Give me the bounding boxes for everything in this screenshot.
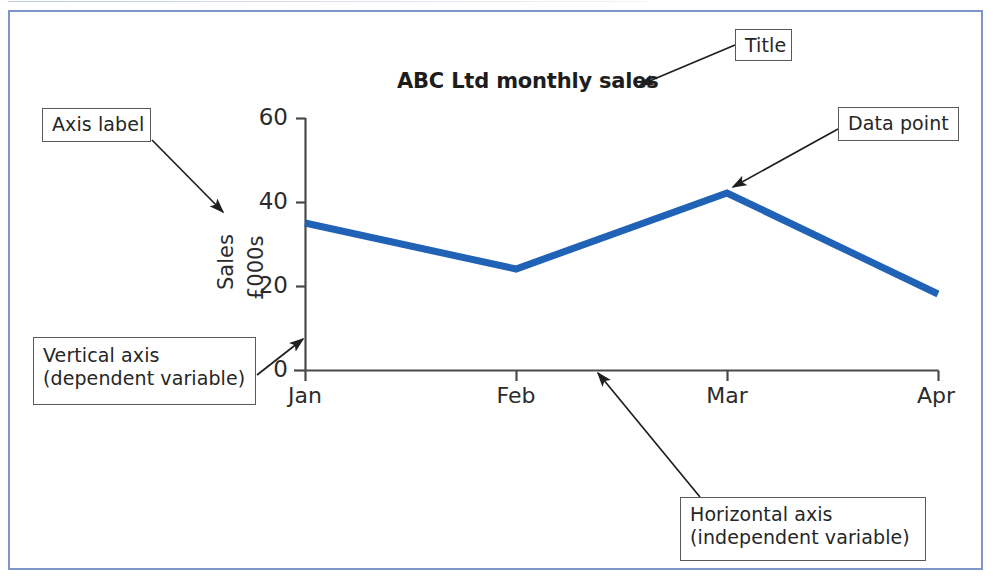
callout-vertical-axis: Vertical axis (dependent variable) xyxy=(33,337,256,405)
y-tick-label-40: 40 xyxy=(242,188,288,214)
leader-axis-label xyxy=(152,140,223,212)
y-tick-label-20: 20 xyxy=(242,272,288,298)
leader-horizontal-axis xyxy=(598,373,700,497)
callout-horizontal-axis: Horizontal axis (independent variable) xyxy=(680,497,926,561)
x-tick-label-jan: Jan xyxy=(265,383,345,408)
x-tick-label-apr: Apr xyxy=(896,383,976,408)
callout-title: Title xyxy=(735,29,792,61)
callout-data-point: Data point xyxy=(838,107,959,141)
x-tick-label-mar: Mar xyxy=(687,383,767,408)
x-axis xyxy=(306,371,939,382)
leader-data-point xyxy=(733,129,838,187)
data-line-series-sales xyxy=(305,193,938,294)
y-axis-title-line1: Sales xyxy=(214,234,238,290)
figure-page: ABC Ltd monthly sales Sales £000s 60 40 … xyxy=(0,0,993,582)
y-tick-label-60: 60 xyxy=(242,104,288,130)
x-tick-label-feb: Feb xyxy=(476,383,556,408)
chart-title: ABC Ltd monthly sales xyxy=(397,69,659,93)
y-axis xyxy=(294,118,306,371)
callout-axis-label: Axis label xyxy=(42,108,151,142)
